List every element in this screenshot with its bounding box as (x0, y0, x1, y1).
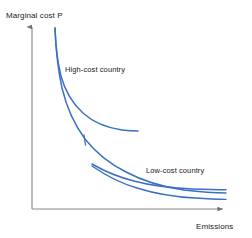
curve-high-cost-upper (55, 28, 138, 131)
chart-canvas (0, 0, 252, 238)
chart-figure: Marginal cost P Emissions High-cost coun… (0, 0, 252, 238)
y-axis-label: Marginal cost P (6, 11, 63, 20)
axes-group (32, 27, 223, 209)
annotation-low-cost-country: Low-cost country (146, 166, 204, 175)
annotation-high-cost-country: High-cost country (65, 65, 125, 74)
spur-tick-mark (84, 135, 86, 145)
x-axis-label: Emissions (196, 222, 233, 231)
